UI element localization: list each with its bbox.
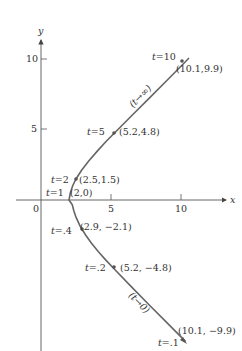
coord-t02: (5.2, −4.8) (120, 262, 172, 273)
label-t01: t=.1 (158, 337, 179, 348)
coord-t04: (2.9, −2.1) (80, 221, 132, 232)
label-t5: t=5 (87, 126, 105, 137)
coord-t10: (10.1,9.9) (176, 63, 223, 74)
annotation-t-to-zero: (t→0) (127, 290, 153, 316)
y-axis-label: y (37, 25, 44, 36)
x-tick-label-5: 5 (108, 203, 114, 214)
point-t02 (112, 265, 116, 269)
parametric-plot: y x 10 5 5 10 0 t=10 (10.1,9.9) t=5 (5.2… (0, 0, 242, 351)
annotation-t-to-infinity: (t→∞) (127, 82, 154, 109)
label-t02: t=.2 (85, 262, 106, 273)
point-t5 (112, 131, 116, 135)
point-t2 (74, 177, 78, 181)
coord-t5: (5.2,4.8) (119, 126, 160, 137)
coord-t1: (2,0) (70, 187, 93, 198)
coord-t2: (2.5,1.5) (79, 174, 120, 185)
x-tick-label-10: 10 (175, 203, 187, 214)
y-tick-label-10: 10 (26, 53, 38, 64)
label-t2: t=2 (51, 174, 69, 185)
coord-t01: (10.1, −9.9) (178, 325, 236, 336)
origin-label: 0 (33, 203, 39, 214)
x-axis-label: x (230, 194, 236, 205)
label-t1: t=1 (46, 187, 64, 198)
label-t04: t=.4 (51, 225, 72, 236)
y-tick-label-5: 5 (31, 123, 37, 134)
label-t10: t=10 (152, 51, 176, 62)
